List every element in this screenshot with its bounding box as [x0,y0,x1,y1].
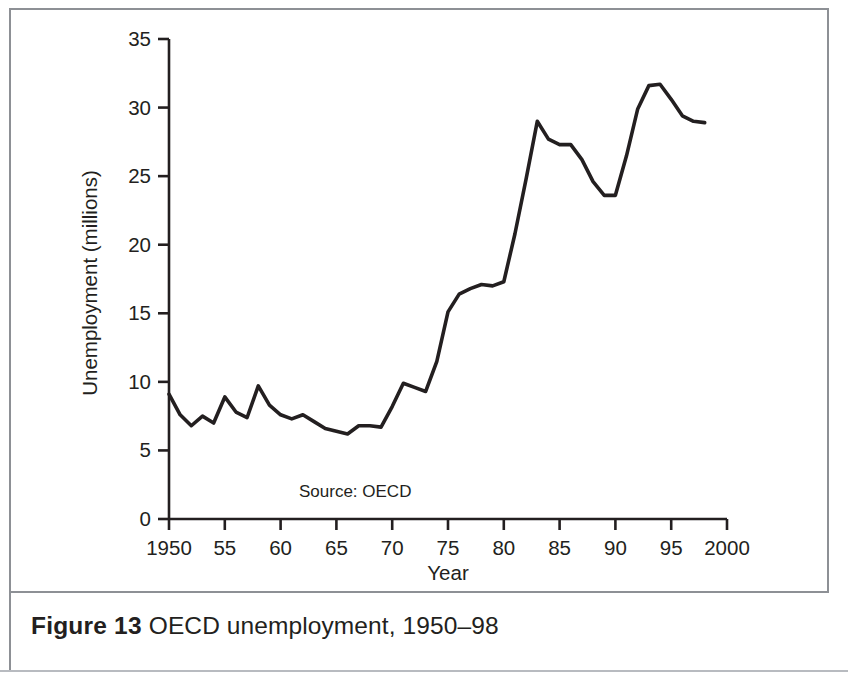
y-tick-label: 15 [128,301,151,324]
x-axis-ticks [169,519,727,530]
unemployment-line-chart: 05101520253035 1950556065707580859095200… [11,10,827,591]
y-tick-label: 10 [128,370,151,393]
figure-root: 05101520253035 1950556065707580859095200… [0,0,848,675]
x-tick-label: 75 [437,536,460,559]
page-left-rule [9,593,11,671]
x-tick-label: 2000 [704,536,750,559]
y-axis-tick-labels: 05101520253035 [128,27,151,530]
y-tick-label: 30 [128,96,151,119]
y-tick-label: 25 [128,164,151,187]
x-tick-label: 85 [548,536,571,559]
x-axis-title: Year [427,561,469,584]
y-axis-ticks [158,39,169,519]
figure-caption: Figure 13OECD unemployment, 1950–98 [31,612,499,640]
data-line-oecd-unemployment [169,84,705,434]
y-tick-label: 5 [140,438,151,461]
x-axis-tick-labels: 19505560657075808590952000 [146,536,750,559]
chart-plot-area: 05101520253035 1950556065707580859095200… [11,10,827,591]
x-tick-label: 55 [213,536,236,559]
y-tick-label: 35 [128,27,151,50]
source-annotation: Source: OECD [299,482,411,501]
x-tick-label: 70 [381,536,404,559]
x-tick-label: 60 [269,536,292,559]
y-tick-label: 20 [128,233,151,256]
x-tick-label: 90 [604,536,627,559]
y-axis-title: Unemployment (millions) [78,170,101,396]
x-tick-label: 80 [492,536,515,559]
figure-caption-text: OECD unemployment, 1950–98 [149,612,499,639]
x-tick-label: 1950 [146,536,192,559]
x-tick-label: 65 [325,536,348,559]
page-bottom-rule [0,670,848,672]
figure-number: Figure 13 [31,612,142,639]
x-tick-label: 95 [660,536,683,559]
y-tick-label: 0 [140,507,151,530]
chart-frame: 05101520253035 1950556065707580859095200… [9,8,829,593]
